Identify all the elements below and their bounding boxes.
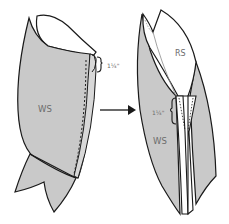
measurement-label-before: 1¼" (107, 62, 120, 69)
rs-label: RS (175, 49, 186, 58)
measurement-label-after: 1¼" (152, 109, 165, 116)
ws-label-after: WS (153, 136, 167, 146)
arrow-right-icon (100, 105, 136, 115)
ws-label-before: WS (38, 104, 52, 114)
fabric-wrong-side-right (190, 62, 216, 204)
step-after-figure: RS 1¼" WS (137, 10, 216, 214)
measurement-bracket-icon (97, 57, 102, 72)
sewing-diagram: WS 1¼" RS (0, 0, 229, 224)
step-before-figure: WS 1¼" (15, 15, 120, 212)
